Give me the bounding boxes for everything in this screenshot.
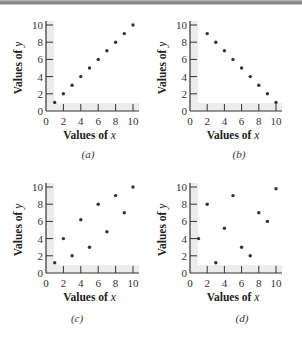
data-point [240, 66, 243, 69]
y-tick-label: 2 [182, 88, 188, 100]
data-point [62, 237, 65, 240]
x-tick-label: 2 [204, 277, 210, 289]
x-tick-label: 4 [222, 115, 228, 127]
data-point [249, 254, 252, 257]
panel-d: 02468100246810Values of xValues of y (d) [151, 160, 302, 320]
y-tick-label: 4 [182, 71, 188, 83]
data-point [114, 194, 117, 197]
caption-a: (a) [68, 148, 108, 160]
data-point [223, 49, 226, 52]
data-point [214, 41, 217, 44]
data-point [274, 187, 277, 190]
axis-shade-x [46, 265, 139, 273]
x-tick-label: 8 [113, 115, 119, 127]
scatter-plot-b: 02468100246810Values of xValues of y [151, 0, 302, 160]
x-tick-label: 10 [271, 277, 283, 289]
data-point [231, 194, 234, 197]
axis-shade-y [46, 21, 54, 111]
y-tick-label: 8 [182, 36, 188, 48]
caption-d: (d) [222, 312, 262, 324]
y-tick-label: 10 [32, 181, 44, 193]
y-tick-label: 10 [32, 19, 44, 31]
data-point [114, 41, 117, 44]
x-tick-label: 6 [239, 115, 245, 127]
data-point [97, 58, 100, 61]
data-point [231, 58, 234, 61]
scatter-plot-d: 02468100246810Values of xValues of y [151, 160, 302, 320]
axis-shade-y [46, 183, 54, 273]
y-tick-label: 2 [38, 250, 44, 262]
y-axis-title: Values of y [156, 41, 169, 95]
axis-shade-y [190, 183, 198, 273]
y-tick-label: 6 [182, 53, 188, 65]
y-tick-label: 6 [38, 53, 44, 65]
y-tick-label: 6 [182, 215, 188, 227]
data-point [62, 92, 65, 95]
x-tick-label: 6 [95, 277, 101, 289]
y-tick-label: 4 [182, 233, 188, 245]
x-tick-label: 2 [61, 277, 67, 289]
x-tick-label: 8 [256, 115, 262, 127]
x-tick-label: 8 [113, 277, 119, 289]
x-tick-label: 0 [43, 115, 49, 127]
y-axis-title: Values of y [12, 41, 25, 95]
axis-shade-x [190, 265, 282, 273]
data-point [206, 32, 209, 35]
data-point [240, 246, 243, 249]
data-point [223, 227, 226, 230]
data-point [70, 254, 73, 257]
y-tick-label: 10 [176, 181, 188, 193]
x-tick-label: 6 [95, 115, 101, 127]
x-tick-label: 0 [187, 277, 193, 289]
x-tick-label: 2 [204, 115, 210, 127]
data-point [266, 92, 269, 95]
scatter-plot-c: 02468100246810Values of xValues of y [0, 160, 151, 320]
x-tick-label: 10 [128, 277, 140, 289]
axis-shade-x [190, 103, 282, 111]
x-axis-title: Values of x [207, 129, 261, 141]
x-axis-title: Values of x [63, 129, 117, 141]
panel-b: 02468100246810Values of xValues of y (b) [151, 0, 302, 160]
panel-a: 02468100246810Values of xValues of y (a) [0, 0, 151, 160]
x-tick-label: 4 [78, 277, 84, 289]
data-point [123, 32, 126, 35]
x-tick-label: 0 [43, 277, 49, 289]
x-tick-label: 4 [222, 277, 228, 289]
x-tick-label: 6 [239, 277, 245, 289]
y-tick-label: 2 [182, 250, 188, 262]
y-tick-label: 8 [38, 36, 44, 48]
x-tick-label: 8 [256, 277, 262, 289]
x-tick-label: 2 [61, 115, 67, 127]
y-tick-label: 6 [38, 215, 44, 227]
data-point [70, 84, 73, 87]
x-tick-label: 10 [271, 115, 283, 127]
data-point [88, 246, 91, 249]
y-tick-label: 2 [38, 88, 44, 100]
x-axis-title: Values of x [63, 291, 117, 303]
y-tick-label: 4 [38, 71, 44, 83]
y-tick-label: 8 [38, 198, 44, 210]
axis-shade-y [190, 21, 198, 111]
x-tick-label: 4 [78, 115, 84, 127]
data-point [197, 237, 200, 240]
data-point [123, 211, 126, 214]
data-point [274, 101, 277, 104]
data-point [214, 261, 217, 264]
data-point [105, 49, 108, 52]
data-point [97, 203, 100, 206]
y-tick-label: 8 [182, 198, 188, 210]
caption-c: (c) [57, 312, 97, 324]
data-point [257, 84, 260, 87]
data-point [131, 185, 134, 188]
data-point [53, 101, 56, 104]
scatter-plot-a: 02468100246810Values of xValues of y [0, 0, 151, 160]
axis-shade-x [46, 103, 139, 111]
panel-c: 02468100246810Values of xValues of y (c) [0, 160, 151, 320]
x-axis-title: Values of x [207, 291, 261, 303]
data-point [206, 203, 209, 206]
y-tick-label: 10 [176, 19, 188, 31]
data-point [249, 75, 252, 78]
data-point [79, 75, 82, 78]
y-axis-title: Values of y [12, 203, 25, 257]
data-point [88, 66, 91, 69]
